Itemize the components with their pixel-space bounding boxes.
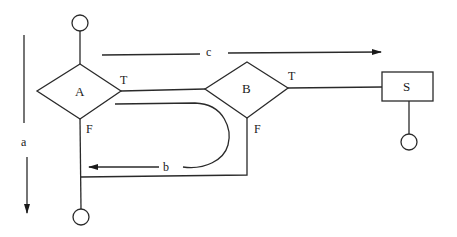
annotation-a: a bbox=[21, 35, 27, 213]
edge-B-to-S bbox=[288, 87, 382, 88]
annotation-c: c bbox=[102, 45, 381, 59]
B-false-label: F bbox=[254, 122, 261, 136]
annotation-b-label: b bbox=[163, 160, 169, 174]
process-S-label: S bbox=[403, 79, 410, 94]
annotation-c-label: c bbox=[206, 45, 211, 59]
A-false-label: F bbox=[86, 122, 93, 136]
edge-A-false-to-end bbox=[80, 119, 81, 209]
annotation-c-line bbox=[102, 54, 200, 55]
annotation-a-label: a bbox=[21, 135, 27, 149]
start-terminal bbox=[72, 15, 88, 31]
S-end-terminal bbox=[401, 134, 417, 150]
flowchart-diagram: a c A T F B T F S b bbox=[0, 0, 457, 237]
end-terminal bbox=[73, 209, 89, 225]
edge-A-to-B bbox=[121, 89, 205, 91]
decision-A: A bbox=[37, 64, 121, 119]
annotation-b: b bbox=[89, 160, 169, 174]
B-true-label: T bbox=[288, 69, 296, 83]
A-true-label: T bbox=[120, 73, 128, 87]
process-S: S bbox=[382, 72, 433, 101]
annotation-loop-curve bbox=[115, 103, 229, 168]
decision-B-label: B bbox=[242, 81, 251, 96]
decision-B: B bbox=[205, 62, 288, 118]
decision-A-label: A bbox=[75, 84, 85, 99]
annotation-c-arrow bbox=[228, 52, 381, 53]
